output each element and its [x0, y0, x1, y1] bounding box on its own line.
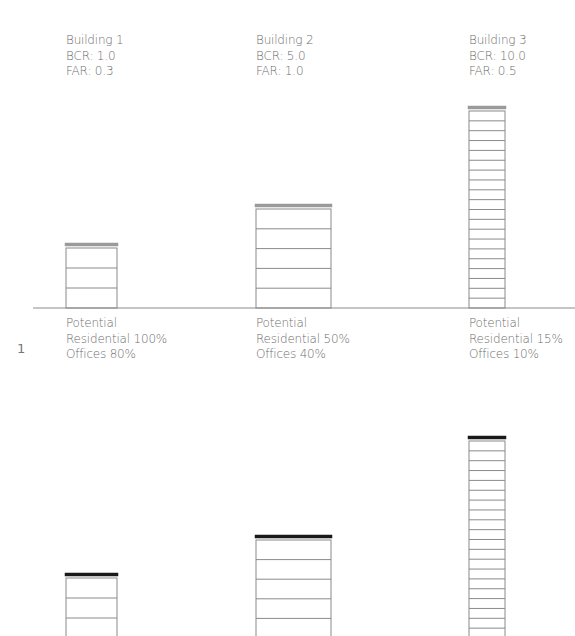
building-2-header: Building 2 BCR: 5.0 FAR: 1.0 [256, 33, 313, 80]
building-1-header: Building 1 BCR: 1.0 FAR: 0.3 [66, 33, 123, 80]
building-1-potential: Potential Residential 100% Offices 80% [66, 316, 167, 363]
roof-slab [468, 106, 506, 109]
building-1-name: Building 1 [66, 33, 123, 49]
building-3-bcr: BCR: 10.0 [469, 49, 526, 65]
building-2-offices: Offices 40% [256, 347, 350, 363]
figure-number: 1 [17, 341, 25, 356]
building-3-residential: Residential 15% [469, 332, 563, 348]
building-3-elevation [468, 106, 506, 308]
building-outline [256, 540, 331, 636]
building-2-bcr: BCR: 5.0 [256, 49, 313, 65]
roof-slab [255, 535, 332, 538]
building-1-far: FAR: 0.3 [66, 64, 123, 80]
building-1-bcr: BCR: 1.0 [66, 49, 123, 65]
building-2-far: FAR: 1.0 [256, 64, 313, 80]
building-outline [66, 578, 117, 636]
building-3-header: Building 3 BCR: 10.0 FAR: 0.5 [469, 33, 526, 80]
building-3-potential-title: Potential [469, 316, 563, 332]
building-1-residential: Residential 100% [66, 332, 167, 348]
roof-slab [468, 436, 506, 439]
building-2-potential: Potential Residential 50% Offices 40% [256, 316, 350, 363]
building-1-potential-title: Potential [66, 316, 167, 332]
building-3-elevation [468, 436, 506, 636]
roof-slab [65, 573, 118, 576]
roof-slab [65, 243, 118, 246]
building-3-name: Building 3 [469, 33, 526, 49]
building-2-elevation [255, 535, 332, 636]
building-2-elevation [255, 204, 332, 308]
building-outline [256, 209, 331, 308]
top-section-elevations [33, 106, 575, 308]
building-3-potential: Potential Residential 15% Offices 10% [469, 316, 563, 363]
building-outline [66, 248, 117, 308]
roof-slab [255, 204, 332, 207]
building-1-offices: Offices 80% [66, 347, 167, 363]
building-1-elevation [65, 573, 118, 636]
building-3-offices: Offices 10% [469, 347, 563, 363]
building-2-residential: Residential 50% [256, 332, 350, 348]
building-2-potential-title: Potential [256, 316, 350, 332]
building-3-far: FAR: 0.5 [469, 64, 526, 80]
building-2-name: Building 2 [256, 33, 313, 49]
building-1-elevation [65, 243, 118, 308]
bottom-section-elevations [33, 436, 575, 636]
